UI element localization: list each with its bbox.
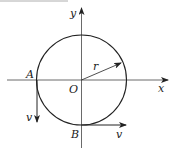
point-b-label: B [70, 128, 79, 141]
origin-label: O [69, 83, 78, 96]
radius-label: r [93, 60, 99, 73]
velocity-a-label: v [26, 111, 33, 124]
circular-motion-diagram: y x O r A B v v [0, 0, 172, 154]
radius-arrow [82, 63, 122, 80]
y-axis-label: y [69, 7, 77, 20]
velocity-b-label: v [116, 128, 123, 141]
x-axis-label: x [158, 82, 165, 95]
point-a-label: A [25, 68, 34, 81]
